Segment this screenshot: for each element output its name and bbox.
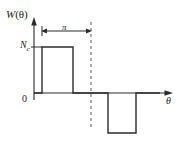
x-axis-label: θ xyxy=(166,96,171,106)
width-span-label: π xyxy=(62,23,67,32)
amplitude-label-subscript: c xyxy=(27,45,30,53)
y-axis xyxy=(31,17,37,100)
origin-label: 0 xyxy=(22,94,27,104)
amplitude-label-symbol: N xyxy=(20,39,27,50)
y-axis-label-function: W xyxy=(6,8,15,20)
angular-distribution-figure: W(θ) Nc 0 π θ xyxy=(0,0,182,151)
y-axis-label: W(θ) xyxy=(6,9,28,20)
amplitude-label: Nc xyxy=(20,40,30,53)
y-axis-arrowhead xyxy=(31,17,37,26)
square-wave-curve xyxy=(34,47,160,133)
y-axis-label-argument: (θ) xyxy=(15,8,28,20)
figure-canvas xyxy=(0,0,182,151)
